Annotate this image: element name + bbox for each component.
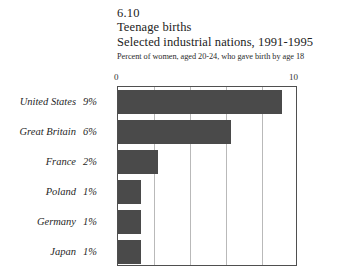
category-value: 9% (83, 96, 105, 107)
bar (118, 240, 141, 264)
bar (118, 150, 158, 174)
category-value: 1% (83, 246, 105, 257)
bar-row (118, 177, 296, 207)
category-label-row: Germany1% (0, 206, 117, 236)
chart-header: 6.10 Teenage births Selected industrial … (117, 6, 356, 63)
category-label-row: Great Britain6% (0, 116, 117, 146)
bar-row (118, 237, 296, 267)
chart-title: Teenage births (117, 20, 356, 35)
category-value: 1% (83, 186, 105, 197)
chart-subtitle: Selected industrial nations, 1991-1995 (117, 35, 356, 50)
bar-row (118, 117, 296, 147)
category-name: United States (20, 96, 76, 107)
bar (118, 120, 231, 144)
bar (118, 210, 141, 234)
bar (118, 90, 282, 114)
plot-area (117, 86, 297, 266)
category-name: Poland (46, 186, 76, 197)
category-name: Great Britain (20, 126, 76, 137)
category-name: Germany (37, 216, 76, 227)
category-name: France (46, 156, 76, 167)
category-value: 2% (83, 156, 105, 167)
category-value: 1% (83, 216, 105, 227)
category-label-column: United States9%Great Britain6%France2%Po… (0, 86, 117, 266)
bar-row (118, 87, 296, 117)
x-axis-tick-labels: 0 10 (117, 72, 297, 84)
bar (118, 180, 141, 204)
category-label-row: France2% (0, 146, 117, 176)
x-axis-tick-10: 10 (289, 72, 298, 83)
chart-note: Percent of women, aged 20-24, who gave b… (117, 51, 356, 63)
category-label-row: Poland1% (0, 176, 117, 206)
figure-number: 6.10 (117, 6, 356, 20)
category-name: Japan (50, 246, 76, 257)
bar-row (118, 207, 296, 237)
x-axis-tick-0: 0 (114, 72, 119, 83)
category-value: 6% (83, 126, 105, 137)
bar-row (118, 147, 296, 177)
category-label-row: Japan1% (0, 236, 117, 266)
bar-series (118, 87, 296, 265)
category-label-row: United States9% (0, 86, 117, 116)
